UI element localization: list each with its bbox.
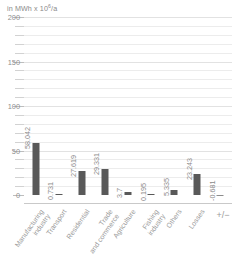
y-tick-mark-minor: [15, 26, 24, 27]
bar[interactable]: [148, 194, 155, 195]
bar[interactable]: [78, 171, 85, 196]
bar[interactable]: [171, 190, 178, 195]
y-axis-tick-label: 50: [12, 146, 20, 155]
y-tick-mark-minor: [15, 53, 24, 54]
y-tick-mark-minor: [15, 97, 24, 98]
y-tick-mark-minor: [15, 44, 24, 45]
plot-area: 05010015020058.0420.73127.61929.3313.70.…: [24, 17, 232, 204]
y-tick-mark-minor: [15, 186, 24, 187]
y-axis-tick-label: 100: [8, 102, 20, 111]
bar-value-label: 58.042: [23, 127, 32, 149]
y-axis-tick-label: 0: [16, 191, 20, 200]
bar-group[interactable]: 27.619: [70, 17, 93, 204]
bar-value-label: 29.331: [92, 153, 101, 175]
y-tick-mark-minor: [15, 177, 24, 178]
bar-value-label: -0.681: [208, 181, 217, 201]
bar-value-label: 0.731: [46, 182, 55, 200]
y-tick-mark-minor: [15, 79, 24, 80]
bar-value-label: 0.195: [139, 183, 148, 201]
y-tick-mark-minor: [15, 88, 24, 89]
bar-group[interactable]: 3.7: [116, 17, 139, 204]
y-tick-mark-minor: [15, 70, 24, 71]
bar-group[interactable]: 0.731: [47, 17, 70, 204]
bar-group[interactable]: 29.331: [93, 17, 116, 204]
y-tick-mark-minor: [15, 35, 24, 36]
bar-group[interactable]: -0.681: [209, 17, 232, 204]
bar-group[interactable]: 58.042: [24, 17, 47, 204]
y-tick-mark-minor: [15, 159, 24, 160]
bar[interactable]: [194, 174, 201, 195]
bar[interactable]: [101, 169, 108, 195]
bar[interactable]: [55, 194, 62, 195]
x-axis-category-label: +/−: [216, 212, 229, 220]
bar[interactable]: [32, 143, 39, 195]
bar[interactable]: [124, 192, 131, 195]
bar-value-label: 5.335: [162, 178, 171, 196]
y-axis-tick-label: 150: [8, 57, 20, 66]
bar-value-label: 23.243: [185, 158, 194, 180]
bar-chart: in MWh x 106/a 05010015020058.0420.73127…: [0, 0, 236, 276]
x-axis-labels: Manufacturing industryTransportResidenti…: [24, 206, 232, 276]
y-axis-tick-label: 200: [8, 13, 20, 22]
y-tick-mark-minor: [15, 115, 24, 116]
bar-group[interactable]: 23.243: [186, 17, 209, 204]
y-tick-mark-minor: [15, 168, 24, 169]
bar-group[interactable]: 5.335: [163, 17, 186, 204]
bar-value-label: 27.619: [69, 155, 78, 177]
bar[interactable]: [217, 195, 224, 196]
bar-group[interactable]: 0.195: [140, 17, 163, 204]
y-tick-mark-minor: [15, 124, 24, 125]
unit-caption-suffix: /a: [51, 4, 57, 13]
bar-value-label: 3.7: [115, 188, 124, 198]
